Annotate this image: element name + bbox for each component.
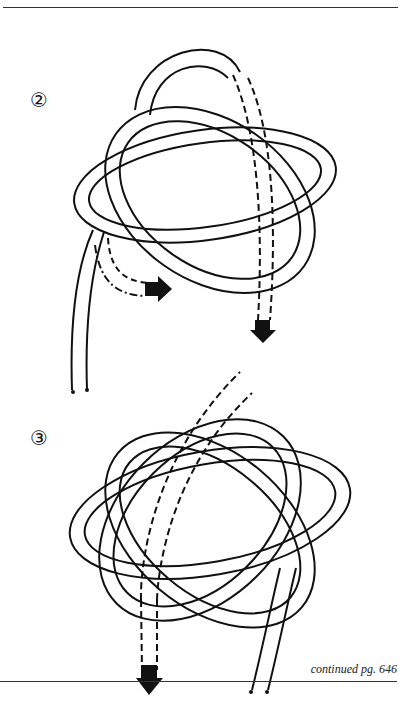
knot-illustrations xyxy=(0,0,419,723)
knot-diagram-step-2 xyxy=(67,50,350,390)
arrow-right-icon xyxy=(145,276,172,302)
footer-rule xyxy=(0,681,397,682)
arrow-down-icon xyxy=(136,665,163,695)
knot-diagram-step-3 xyxy=(59,372,360,690)
arrow-down-icon xyxy=(250,320,276,343)
continued-note: continued pg. 646 xyxy=(311,662,397,677)
